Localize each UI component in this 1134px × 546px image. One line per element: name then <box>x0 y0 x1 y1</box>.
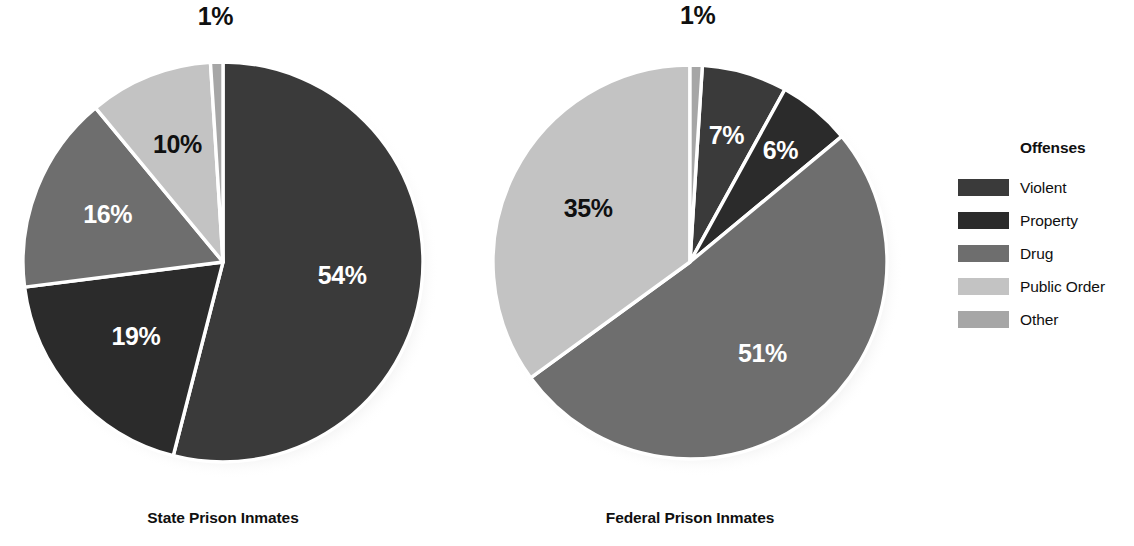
legend-item[interactable]: Drug <box>958 237 1134 270</box>
pie-chart: 7%6%51%35%1% <box>491 1 903 476</box>
chart-caption-state: State Prison Inmates <box>147 509 298 527</box>
legend-item-label: Public Order <box>1020 278 1105 296</box>
legend-item-label: Drug <box>1020 245 1053 263</box>
legend-item[interactable]: Violent <box>958 171 1134 204</box>
pie-chart: 54%19%16%10%1% <box>21 2 439 479</box>
slice-percent-label: 10% <box>153 130 202 158</box>
chart-caption-federal: Federal Prison Inmates <box>606 509 774 527</box>
legend-item[interactable]: Other <box>958 303 1134 336</box>
legend-swatch <box>958 278 1009 295</box>
slice-percent-label: 6% <box>763 136 799 164</box>
legend-swatch <box>958 245 1009 262</box>
slice-percent-label: 51% <box>738 339 787 367</box>
slice-percent-label: 1% <box>680 1 716 29</box>
slice-percent-label: 7% <box>709 121 745 149</box>
legend-swatch <box>958 212 1009 229</box>
slice-percent-label: 54% <box>318 261 367 289</box>
legend: Offenses ViolentPropertyDrugPublic Order… <box>958 139 1134 336</box>
slice-percent-label: 1% <box>198 2 234 30</box>
slice-percent-label: 19% <box>112 322 161 350</box>
legend-item-label: Property <box>1020 212 1078 230</box>
legend-item[interactable]: Public Order <box>958 270 1134 303</box>
chart-canvas: 54%19%16%10%1%7%6%51%35%1% State Prison … <box>0 0 1134 546</box>
legend-item-label: Violent <box>1020 179 1066 197</box>
slice-percent-label: 35% <box>564 194 613 222</box>
slice-percent-label: 16% <box>83 200 132 228</box>
legend-title: Offenses <box>1020 139 1134 157</box>
legend-swatch <box>958 179 1009 196</box>
legend-swatch <box>958 311 1009 328</box>
legend-item[interactable]: Property <box>958 204 1134 237</box>
legend-item-label: Other <box>1020 311 1058 329</box>
